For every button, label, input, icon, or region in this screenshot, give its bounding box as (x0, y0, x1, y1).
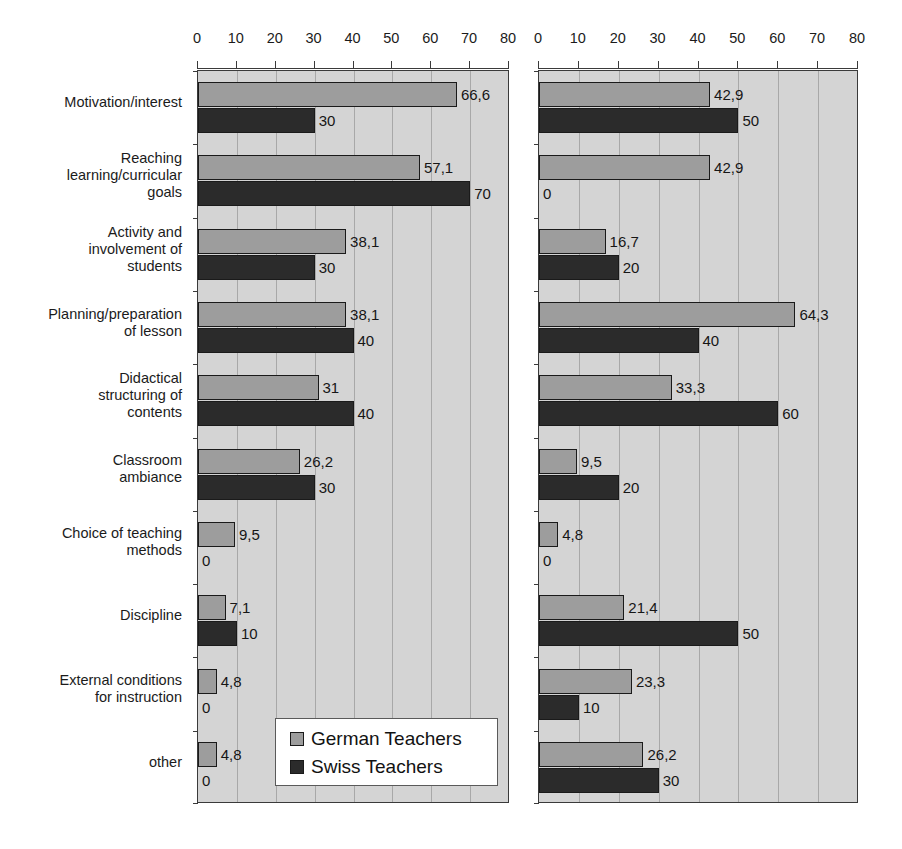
x-axis-tick-label: 70 (809, 30, 825, 47)
legend-label-swiss: Swiss Teachers (311, 756, 443, 778)
bar-swiss (198, 401, 354, 426)
category-label: other (0, 754, 182, 771)
bar-value-label: 4,8 (221, 673, 242, 690)
x-axis-tick (658, 61, 659, 69)
bar-value-label: 70 (474, 185, 491, 202)
gridline (470, 71, 471, 802)
bar-german (198, 82, 457, 107)
x-axis-tick (777, 61, 778, 69)
bar-value-label: 9,5 (581, 453, 602, 470)
category-tick (193, 218, 198, 219)
legend-item-german: German Teachers (290, 725, 497, 753)
bar-value-label: 40 (703, 332, 720, 349)
category-label: Reaching learning/curricular goals (0, 150, 182, 201)
category-tick (193, 511, 198, 512)
bar-swiss (198, 181, 470, 206)
x-axis-tick-label: 20 (610, 30, 626, 47)
x-axis-right: 01020304050607080 (538, 30, 858, 70)
bar-swiss (539, 255, 619, 280)
bar-german (539, 82, 710, 107)
category-tick (534, 291, 539, 292)
x-axis-tick-label: 40 (689, 30, 705, 47)
gridline (699, 71, 700, 802)
bar-value-label: 66,6 (461, 86, 490, 103)
category-tick (534, 731, 539, 732)
x-axis-tick-label: 80 (500, 30, 516, 47)
category-tick (193, 657, 198, 658)
bar-german (539, 375, 672, 400)
bar-value-label: 38,1 (350, 233, 379, 250)
x-axis-tick (508, 61, 509, 69)
bar-swiss (539, 328, 699, 353)
bar-german (198, 155, 420, 180)
x-axis-tick (391, 61, 392, 69)
category-tick (193, 731, 198, 732)
bar-value-label: 42,9 (714, 159, 743, 176)
category-label: Choice of teaching methods (0, 525, 182, 559)
bar-value-label: 4,8 (221, 746, 242, 763)
x-axis-tick-label: 50 (383, 30, 399, 47)
bar-value-label: 10 (241, 625, 258, 642)
x-axis-tick (197, 61, 198, 69)
bar-value-label: 4,8 (562, 526, 583, 543)
legend-item-swiss: Swiss Teachers (290, 753, 497, 781)
x-axis-tick-label: 0 (534, 30, 542, 47)
plot-area-right: 42,95042,9016,72064,34033,3609,5204,8021… (538, 70, 858, 803)
x-axis-tick (353, 61, 354, 69)
gridline (818, 71, 819, 802)
bar-value-label: 60 (782, 405, 799, 422)
bar-german (198, 669, 217, 694)
bar-value-label: 30 (663, 772, 680, 789)
bar-value-label: 57,1 (424, 159, 453, 176)
category-tick (534, 144, 539, 145)
bar-value-label: 50 (742, 625, 759, 642)
x-axis-tick (857, 61, 858, 69)
bar-german (539, 669, 632, 694)
bar-swiss (539, 768, 659, 793)
bar-german (539, 449, 577, 474)
bar-value-label: 31 (323, 379, 340, 396)
bar-german (198, 449, 300, 474)
bar-german (198, 375, 319, 400)
bar-value-label: 30 (319, 112, 336, 129)
bar-value-label: 23,3 (636, 673, 665, 690)
bar-german (539, 302, 795, 327)
x-axis-tick (469, 61, 470, 69)
bar-value-label: 7,1 (230, 599, 251, 616)
category-tick (193, 71, 198, 72)
bar-value-label: 9,5 (239, 526, 260, 543)
bar-value-label: 20 (623, 479, 640, 496)
bar-german (198, 229, 346, 254)
x-axis-tick-label: 50 (729, 30, 745, 47)
category-tick (534, 438, 539, 439)
x-axis-tick (236, 61, 237, 69)
gridline (778, 71, 779, 802)
bar-swiss (198, 328, 354, 353)
bar-swiss (539, 695, 579, 720)
category-tick (193, 144, 198, 145)
bar-value-label: 0 (202, 552, 210, 569)
x-axis-left: 01020304050607080 (197, 30, 509, 70)
category-label: Planning/preparation of lesson (0, 306, 182, 340)
bar-german (198, 302, 346, 327)
x-axis-tick (578, 61, 579, 69)
bar-value-label: 33,3 (676, 379, 705, 396)
bar-value-label: 0 (202, 699, 210, 716)
category-label: Didactical structuring of contents (0, 370, 182, 421)
x-axis-tick-label: 60 (769, 30, 785, 47)
x-axis-tick-label: 30 (306, 30, 322, 47)
x-axis-tick-label: 30 (650, 30, 666, 47)
x-axis-tick (275, 61, 276, 69)
bar-value-label: 0 (543, 185, 551, 202)
category-tick (193, 438, 198, 439)
gridline (659, 71, 660, 802)
bar-value-label: 64,3 (799, 306, 828, 323)
legend-swatch-swiss-icon (290, 760, 304, 774)
bar-german (539, 522, 558, 547)
x-axis-tick (817, 61, 818, 69)
bar-value-label: 21,4 (628, 599, 657, 616)
legend-label-german: German Teachers (311, 728, 462, 750)
bar-german (539, 742, 643, 767)
bar-value-label: 10 (583, 699, 600, 716)
category-tick (193, 364, 198, 365)
